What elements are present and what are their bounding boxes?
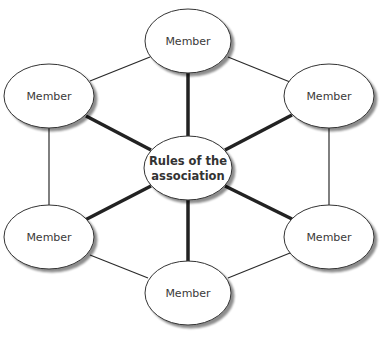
node-label: Member [165, 287, 211, 300]
node-label: Member [26, 231, 72, 244]
spoke-upper-left [86, 116, 151, 150]
member-node-upper-right: Member [284, 64, 374, 128]
edge-upper-left-top [90, 57, 150, 81]
center-label-line2: association [151, 169, 224, 183]
center-node-rules: Rules of the association [144, 136, 232, 200]
network-diagram: Member Member Member Member Member Membe… [0, 0, 383, 339]
spoke-lower-left [85, 186, 151, 220]
spoke-lower-right [225, 186, 292, 219]
edge-top-upper-right [228, 57, 290, 82]
member-node-top: Member [145, 9, 231, 73]
node-label: Member [26, 90, 72, 103]
node-label: Member [306, 231, 352, 244]
member-node-lower-right: Member [284, 205, 374, 269]
center-label-line1: Rules of the [149, 154, 227, 168]
member-node-upper-left: Member [4, 64, 94, 128]
spoke-upper-right [225, 115, 292, 150]
member-node-bottom: Member [145, 261, 231, 325]
node-label: Member [165, 35, 211, 48]
node-label: Member [306, 90, 352, 103]
edge-bottom-lower-left [90, 255, 148, 278]
edge-lower-right-bottom [228, 253, 290, 278]
member-node-lower-left: Member [4, 205, 94, 269]
